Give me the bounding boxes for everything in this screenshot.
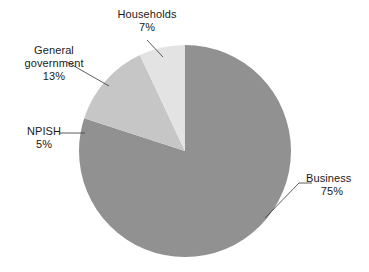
pie-label-households-name: Households <box>104 8 190 21</box>
pie-label-households: Households 7% <box>104 8 190 34</box>
pie-label-business-name: Business <box>306 172 368 185</box>
pie-chart-figure: Households 7% General government 13% NPI… <box>0 0 369 272</box>
pie-label-business-value: 75% <box>306 185 358 198</box>
pie-label-npish: NPISH 5% <box>8 125 80 151</box>
pie-label-business: Business 75% <box>306 172 368 198</box>
pie-label-general-government-name-line1: General <box>6 44 102 57</box>
pie-label-npish-name: NPISH <box>8 125 80 138</box>
pie-label-households-value: 7% <box>104 21 190 34</box>
pie-label-npish-value: 5% <box>8 138 80 151</box>
pie-label-general-government-value: 13% <box>6 70 102 83</box>
pie-label-general-government: General government 13% <box>6 44 102 83</box>
pie-label-general-government-name-line2: government <box>6 57 102 70</box>
